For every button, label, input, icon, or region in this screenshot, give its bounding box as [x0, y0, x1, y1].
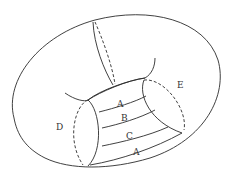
- band-line-2: [102, 110, 155, 128]
- outer-boundary: [12, 15, 220, 167]
- top-meridian-solid: [93, 22, 113, 85]
- label-band-C: C: [126, 131, 133, 141]
- label-band-bottom-A: A: [132, 147, 140, 157]
- left-circle-D-dashed: [74, 100, 88, 165]
- label-band-B: B: [121, 113, 128, 123]
- label-right-circle-E: E: [177, 80, 184, 90]
- torus-diagram: A B C A D E: [0, 0, 231, 176]
- inner-hole-top-curve: [88, 78, 145, 100]
- label-band-top-A: A: [116, 99, 124, 109]
- left-circle-D-solid: [88, 100, 99, 166]
- label-left-circle-D: D: [56, 122, 63, 132]
- band-line-3: [102, 127, 168, 146]
- top-meridian-dashed: [95, 22, 115, 84]
